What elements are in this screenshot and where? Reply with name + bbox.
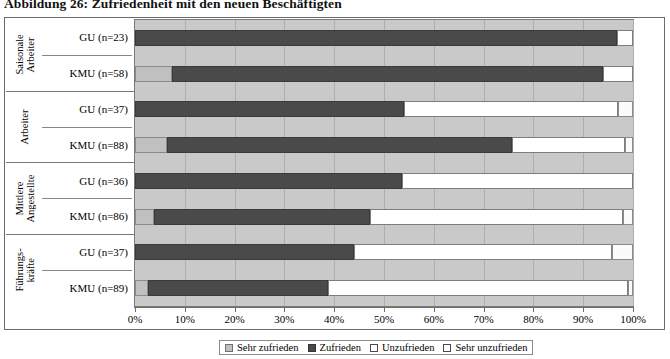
category-row-label: GU (n=36) (42, 163, 132, 198)
category-row-label: GU (n=23) (42, 19, 132, 55)
bar-segment-s4 (623, 209, 633, 225)
x-tick-50 (384, 307, 385, 312)
bar-segment-s4 (612, 244, 633, 260)
x-tick-100 (633, 307, 634, 312)
gridline-20 (235, 20, 236, 306)
category-group: Mittlere AngestellteGU (n=36)KMU (n=86) (6, 162, 134, 234)
x-tick-10 (185, 307, 186, 312)
bar-segment-s1 (135, 209, 154, 225)
x-tick-20 (235, 307, 236, 312)
bar-segment-s2 (172, 66, 603, 82)
category-row-label: KMU (n=86) (42, 198, 132, 233)
gridline-60 (434, 20, 435, 306)
gridline-50 (384, 20, 385, 306)
gridline-10 (185, 20, 186, 306)
x-tick-60 (434, 307, 435, 312)
bar-segment-s3 (603, 66, 633, 82)
x-tick-30 (284, 307, 285, 312)
x-tick-label-100: 100% (603, 313, 663, 325)
bar-segment-s4 (628, 280, 632, 296)
gridline-100 (633, 20, 634, 306)
bar-segment-s2 (135, 30, 617, 46)
bar-segment-s2 (135, 101, 404, 117)
bar-segment-s3 (370, 209, 623, 225)
x-tick-0 (135, 307, 136, 312)
bar-segment-s3 (512, 137, 625, 153)
category-row-label: KMU (n=58) (42, 55, 132, 91)
bar-row (135, 280, 633, 296)
gridline-30 (284, 20, 285, 306)
legend-swatch-icon (370, 344, 378, 352)
bar-segment-s2 (154, 209, 370, 225)
category-rows: GU (n=37)KMU (n=89) (42, 235, 134, 306)
category-axis-labels: Saisonale ArbeiterGU (n=23)KMU (n=58)Arb… (6, 19, 134, 307)
bar-row (135, 209, 633, 225)
bar-segment-s2 (148, 280, 328, 296)
category-group-label: Saisonale Arbeiter (8, 19, 42, 91)
legend-swatch-icon (443, 344, 451, 352)
bar-segment-s1 (135, 137, 167, 153)
bar-segment-s4 (618, 101, 633, 117)
x-tick-90 (583, 307, 584, 312)
gridline-90 (583, 20, 584, 306)
bar-segment-s3 (328, 280, 628, 296)
legend-item-4[interactable]: Sehr unzufrieden (443, 342, 527, 353)
legend-item-3[interactable]: Unzufrieden (370, 342, 434, 353)
chart-legend: Sehr zufriedenZufriedenUnzufriedenSehr u… (219, 340, 533, 355)
category-row-label: GU (n=37) (42, 92, 132, 127)
category-group: Führungs- kräfteGU (n=37)KMU (n=89) (6, 234, 134, 306)
bar-segment-s1 (135, 280, 148, 296)
plot-area (134, 19, 634, 307)
category-row-label: KMU (n=89) (42, 270, 132, 305)
bar-row (135, 30, 633, 46)
bar-segment-s1 (135, 66, 172, 82)
bar-segment-s2 (167, 137, 513, 153)
legend-item-2[interactable]: Zufrieden (308, 342, 361, 353)
bar-segment-s2 (135, 173, 402, 189)
x-tick-80 (533, 307, 534, 312)
legend-label: Unzufrieden (382, 342, 434, 353)
bar-segment-s3 (617, 30, 633, 46)
category-group: ArbeiterGU (n=37)KMU (n=88) (6, 91, 134, 163)
category-rows: GU (n=36)KMU (n=86) (42, 163, 134, 234)
bar-segment-s2 (135, 244, 354, 260)
bar-segment-s4 (625, 137, 633, 153)
bar-segment-s3 (402, 173, 633, 189)
legend-label: Sehr zufrieden (237, 342, 299, 353)
bar-row (135, 244, 633, 260)
category-row-label: GU (n=37) (42, 235, 132, 270)
x-tick-70 (484, 307, 485, 312)
category-group-label: Mittlere Angestellte (8, 163, 42, 234)
gridline-80 (533, 20, 534, 306)
bar-row (135, 101, 633, 117)
legend-swatch-icon (308, 344, 316, 352)
bar-segment-s3 (404, 101, 618, 117)
category-row-label: KMU (n=88) (42, 127, 132, 162)
bar-row (135, 173, 633, 189)
bar-segment-s3 (354, 244, 612, 260)
x-tick-40 (334, 307, 335, 312)
bar-row (135, 66, 633, 82)
legend-label: Zufrieden (320, 342, 361, 353)
category-rows: GU (n=37)KMU (n=88) (42, 92, 134, 163)
legend-swatch-icon (225, 344, 233, 352)
gridline-70 (484, 20, 485, 306)
chart-page: Abbildung 26: Zufriedenheit mit den neue… (0, 0, 670, 359)
gridline-40 (334, 20, 335, 306)
category-group-label: Arbeiter (8, 92, 42, 163)
category-group: Saisonale ArbeiterGU (n=23)KMU (n=58) (6, 19, 134, 91)
bar-row (135, 137, 633, 153)
category-group-label: Führungs- kräfte (8, 235, 42, 306)
page-title: Abbildung 26: Zufriedenheit mit den neue… (4, 0, 664, 12)
legend-label: Sehr unzufrieden (455, 342, 527, 353)
legend-item-1[interactable]: Sehr zufrieden (225, 342, 299, 353)
category-rows: GU (n=23)KMU (n=58) (42, 19, 134, 91)
